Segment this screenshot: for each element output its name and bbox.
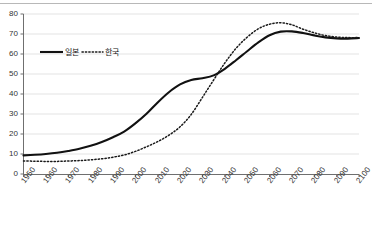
plot-area: [0, 0, 372, 229]
series-line-korea: [24, 23, 360, 162]
y-tick-label: 0: [0, 170, 18, 178]
y-tick-label: 60: [0, 50, 18, 58]
y-tick-label: 80: [0, 10, 18, 18]
data-series-group: [24, 23, 360, 162]
y-tick-label: 70: [0, 30, 18, 38]
y-tick-label: 30: [0, 110, 18, 118]
legend-label-japan: 일본: [65, 48, 79, 57]
line-chart: 01020304050607080 1950196019701980199020…: [0, 0, 372, 229]
y-tick-label: 10: [0, 150, 18, 158]
y-tick-label: 20: [0, 130, 18, 138]
y-tick-label: 50: [0, 70, 18, 78]
legend-label-korea: 한국: [105, 48, 119, 57]
y-tick-label: 40: [0, 90, 18, 98]
